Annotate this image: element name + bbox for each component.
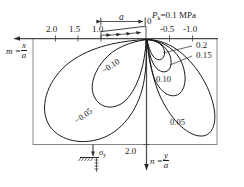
contour-label-0-10: 0.10 bbox=[156, 75, 171, 84]
x-axis-title-lhs: m = bbox=[6, 46, 21, 56]
y-tick-2-0: 2.0 bbox=[125, 147, 136, 156]
contour-0-10 bbox=[147, 40, 185, 96]
y-axis-title-denominator: a bbox=[163, 161, 170, 170]
x-tick-1-5: 1.5 bbox=[69, 25, 80, 34]
sigma-subscript: y bbox=[103, 152, 106, 158]
plot-frame bbox=[33, 39, 217, 145]
contour-label-0-05: 0.05 bbox=[170, 118, 185, 127]
contour-label-0-15: 0.15 bbox=[196, 51, 212, 60]
x-axis-title: m = x a bbox=[6, 42, 27, 62]
y-axis-title: n = y a bbox=[150, 152, 169, 172]
stress-symbol-label: σy bbox=[99, 148, 106, 158]
contour-label-0-2: 0.2 bbox=[196, 41, 207, 50]
y-axis-title-lhs: n = bbox=[150, 156, 163, 166]
x-tick-neg-0-5: -0.5 bbox=[160, 25, 174, 34]
x-tick-neg-1-0: -1.0 bbox=[183, 25, 197, 34]
x-axis-title-denominator: a bbox=[21, 51, 28, 60]
load-value: =0.1 MPa bbox=[160, 10, 196, 20]
triangular-load-diagram bbox=[101, 26, 146, 38]
figure-container: Pk=0.1 MPa a 0 2.0 1.5 1.0 -0.5 -1.0 m =… bbox=[0, 0, 244, 187]
stress-direction-marker bbox=[79, 145, 100, 173]
origin-label: 0 bbox=[147, 17, 152, 26]
x-tick-2-0: 2.0 bbox=[46, 25, 57, 34]
width-dimension-label: a bbox=[119, 13, 124, 23]
contour-neg-0-05 bbox=[45, 40, 147, 142]
contour-plot-svg bbox=[0, 0, 244, 187]
x-tick-1-0: 1.0 bbox=[92, 25, 103, 34]
load-magnitude-label: Pk=0.1 MPa bbox=[152, 11, 196, 22]
contour-neg-0-10 bbox=[92, 40, 146, 107]
